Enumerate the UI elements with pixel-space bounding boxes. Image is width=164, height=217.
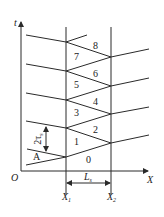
region-a: A (33, 151, 41, 162)
length-label: Ls (83, 171, 93, 183)
wave-lines (26, 35, 149, 165)
wave-diagram: 2τs Ls 8 7 6 5 4 3 2 1 0 A t X O X1 X2 (0, 0, 164, 217)
region-1: 1 (74, 136, 79, 147)
region-4: 4 (93, 96, 98, 107)
region-3: 3 (74, 107, 79, 118)
interval-label: 2τs (32, 133, 44, 145)
t-axis-label: t (14, 17, 17, 28)
region-0: 0 (86, 154, 91, 165)
x-axis-label: X (146, 174, 154, 185)
x1-label: X1 (61, 191, 71, 203)
region-6: 6 (93, 68, 98, 79)
origin-label: O (11, 172, 18, 183)
region-7: 7 (74, 51, 79, 62)
region-2: 2 (93, 124, 98, 135)
region-8: 8 (93, 40, 98, 51)
x2-label: X2 (106, 191, 116, 203)
region-5: 5 (74, 79, 79, 90)
